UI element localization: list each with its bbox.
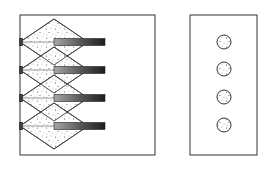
light-spot	[217, 62, 231, 76]
emitter-bar	[54, 123, 105, 130]
light-spot	[217, 35, 231, 49]
emitter-bar	[54, 39, 105, 46]
light-spot	[217, 118, 231, 132]
emitter-bar	[54, 95, 105, 102]
spot-pattern-panel	[190, 15, 257, 155]
light-spot	[217, 90, 231, 104]
diagram-canvas	[0, 0, 274, 172]
emitter-bar	[54, 67, 105, 74]
beam-pattern-panel	[19, 15, 155, 155]
